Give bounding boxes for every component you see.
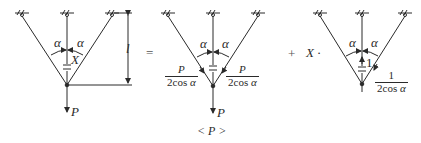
load-label: P xyxy=(217,106,225,119)
plus-sign: + xyxy=(288,46,295,62)
angle-label-left: α xyxy=(200,37,207,50)
equals-sign: = xyxy=(146,45,153,61)
support-icon xyxy=(313,10,412,17)
panel-2-load-state xyxy=(161,10,265,113)
truss-diagram xyxy=(0,0,421,143)
load-label: P xyxy=(71,105,79,118)
angle-label-left: α xyxy=(349,36,356,49)
angle-label-right: α xyxy=(77,36,84,49)
coefficient-label: X · xyxy=(306,46,320,59)
unit-force-label: 1 xyxy=(366,56,373,69)
length-label: l xyxy=(126,42,130,55)
angle-label-right: α xyxy=(371,36,378,49)
angle-label-right: α xyxy=(222,37,229,50)
redundant-label: X xyxy=(71,53,79,66)
angle-label-left: α xyxy=(54,36,61,49)
right-bar-force: 1 2cos α xyxy=(375,70,408,94)
right-bar-force: P 2cos α xyxy=(226,64,259,88)
state-label: < P > xyxy=(197,125,226,137)
support-icon xyxy=(15,10,119,17)
left-bar-force: P 2cos α xyxy=(165,64,198,88)
support-icon xyxy=(161,10,265,17)
